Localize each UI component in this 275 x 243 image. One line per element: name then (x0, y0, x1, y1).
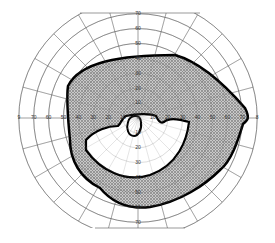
svg-text:50: 50 (210, 114, 216, 120)
svg-text:60: 60 (135, 204, 141, 210)
svg-text:10: 10 (135, 129, 141, 135)
svg-text:70: 70 (31, 114, 37, 120)
svg-text:60: 60 (135, 25, 141, 31)
svg-text:40: 40 (195, 114, 201, 120)
svg-text:30: 30 (135, 70, 141, 76)
svg-text:60: 60 (46, 114, 52, 120)
svg-text:40: 40 (135, 55, 141, 61)
svg-text:50: 50 (61, 114, 67, 120)
svg-text:20: 20 (135, 85, 141, 91)
svg-text:60: 60 (225, 114, 231, 120)
perimetry-chart: 1020304050607010203040506070102030405060… (0, 0, 275, 243)
svg-text:10: 10 (135, 99, 141, 105)
svg-text:30: 30 (135, 159, 141, 165)
svg-text:9: 9 (17, 114, 20, 120)
svg-text:50: 50 (135, 189, 141, 195)
svg-text:10: 10 (120, 114, 126, 120)
svg-text:20: 20 (135, 144, 141, 150)
svg-text:40: 40 (76, 114, 82, 120)
svg-text:10: 10 (150, 114, 156, 120)
svg-text:70: 70 (240, 114, 246, 120)
svg-text:40: 40 (135, 174, 141, 180)
svg-text:30: 30 (91, 114, 97, 120)
svg-text:70: 70 (135, 10, 141, 16)
svg-text:20: 20 (105, 114, 111, 120)
svg-text:50: 50 (135, 40, 141, 46)
svg-text:30: 30 (180, 114, 186, 120)
svg-text:70: 70 (135, 219, 141, 225)
svg-text:20: 20 (165, 114, 171, 120)
svg-text:8: 8 (256, 114, 259, 120)
